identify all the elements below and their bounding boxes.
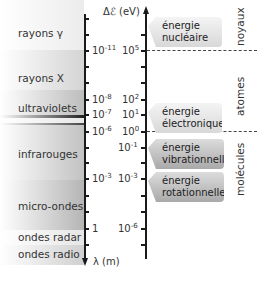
tick [141, 195, 145, 197]
left-tick-label: 10-7 [92, 108, 112, 120]
wavelength-axis-title: λ (m) [93, 256, 120, 267]
tick [85, 114, 89, 116]
label-radio: ondes radio [18, 248, 80, 260]
energy-box-line2: rotationnelle [162, 187, 219, 199]
tick [141, 50, 145, 52]
energy-box-nuclear: énergie nucléaire [148, 17, 222, 47]
tick [85, 211, 89, 213]
label-radar: ondes radar [18, 231, 81, 243]
tick [85, 18, 89, 20]
domain-nuclei: noyaux [234, 7, 246, 46]
left-tick-label: 1 [92, 222, 98, 234]
tick [141, 131, 145, 133]
energy-box-vibrational: énergie vibrationnelle [148, 139, 224, 169]
right-tick-label: 102 [122, 93, 139, 105]
tick [141, 114, 145, 116]
tick [141, 162, 145, 164]
tick [85, 82, 89, 84]
tick [85, 195, 89, 197]
tick [141, 211, 145, 213]
right-tick-label: 10-6 [118, 222, 138, 234]
wavelength-arrow-icon [82, 258, 88, 266]
tick [141, 99, 145, 101]
energy-arrow-icon [143, 6, 149, 14]
tick [141, 228, 145, 230]
energy-box-line1: énergie [162, 106, 217, 118]
energy-box-electronic: énergie électronique [148, 103, 222, 133]
label-ir: infrarouges [18, 148, 78, 160]
energy-box-line2: électronique [162, 118, 217, 130]
label-x: rayons X [18, 72, 64, 84]
tick [141, 147, 145, 149]
tick [85, 99, 89, 101]
tick [85, 228, 89, 230]
tick [141, 34, 145, 36]
energy-box-rotational: énergie rotationnelle [148, 172, 224, 202]
tick [141, 82, 145, 84]
tick [141, 244, 145, 246]
right-tick-label: 100 [122, 125, 139, 137]
right-tick-label: 101 [122, 108, 139, 120]
tick [141, 66, 145, 68]
tick [85, 244, 89, 246]
tick [85, 66, 89, 68]
energy-box-line2: vibrationnelle [162, 154, 219, 166]
left-tick-label: 10-11 [92, 44, 116, 56]
energy-box-line1: énergie [162, 20, 217, 32]
left-tick-label: 10-8 [92, 93, 112, 105]
energy-axis-title: Δℰ (eV) [103, 6, 140, 17]
label-micro: micro-ondes [18, 200, 83, 212]
right-tick-label: 105 [122, 44, 139, 56]
right-tick-label: 10-1 [118, 141, 138, 153]
left-tick-label: 10-6 [92, 125, 112, 137]
energy-box-line2: nucléaire [162, 32, 217, 44]
left-tick-label: 10-3 [92, 172, 112, 184]
right-tick-label: 10-3 [118, 172, 138, 184]
tick [85, 34, 89, 36]
domain-atoms: atomes [234, 77, 246, 116]
tick [85, 178, 89, 180]
energy-box-line1: énergie [162, 175, 219, 187]
tick [85, 131, 89, 133]
label-gamma: rayons γ [18, 27, 63, 39]
domain-molecules: molécules [234, 143, 246, 196]
tick [85, 50, 89, 52]
energy-box-line1: énergie [162, 142, 219, 154]
tick [141, 178, 145, 180]
band-gamma [0, 0, 84, 50]
label-uv: ultraviolets [18, 102, 77, 114]
tick [85, 162, 89, 164]
tick [85, 147, 89, 149]
separator-nuclei-atoms [147, 50, 257, 51]
band-x [0, 50, 84, 90]
